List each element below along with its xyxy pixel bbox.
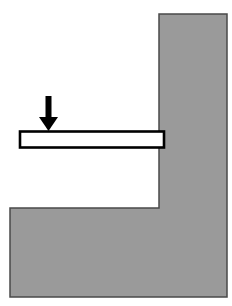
cantilever-beam-shape xyxy=(20,132,164,148)
diagram-canvas xyxy=(0,0,232,306)
load-arrow-shaft xyxy=(46,96,52,118)
structural-diagram xyxy=(0,0,232,306)
